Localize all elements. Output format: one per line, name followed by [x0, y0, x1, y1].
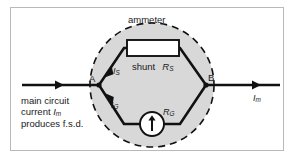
- left-lead-arrow-icon: [55, 80, 64, 89]
- node-b-label: B: [208, 72, 214, 83]
- shunt-current-label: IS: [113, 66, 120, 77]
- node-a-label: A: [89, 73, 95, 84]
- shunt-current-subscript: S: [116, 69, 120, 76]
- caption-line-1: main circuit: [21, 95, 83, 106]
- node-a-dot: [96, 82, 101, 87]
- caption-line-2-prefix: current: [21, 106, 53, 117]
- galvanometer-resistance-label: RG: [163, 107, 174, 118]
- main-current-right-label: Im: [253, 93, 261, 104]
- figure-container: ammeter A B shuntRS IS IG RG Im main cir…: [0, 0, 296, 166]
- galvanometer-resistance-subscript: G: [170, 110, 175, 117]
- caption-line-3: produces f.s.d.: [21, 118, 83, 129]
- caption-block: main circuit current Im produces f.s.d.: [21, 95, 83, 129]
- ammeter-title-label: ammeter: [128, 14, 165, 25]
- right-lead-arrow-icon: [252, 80, 261, 89]
- shunt-text: shunt: [132, 61, 155, 72]
- galvanometer-current-subscript: G: [114, 103, 119, 110]
- caption-main-current-subscript: m: [56, 111, 61, 118]
- main-current-subscript-right: m: [256, 96, 261, 103]
- caption-line-2: current Im: [21, 106, 83, 118]
- galvanometer-current-label: IG: [111, 100, 119, 111]
- shunt-resistance-subscript: S: [169, 65, 173, 72]
- shunt-resistor-symbol: [127, 40, 179, 56]
- shunt-label: shuntRS: [132, 61, 173, 73]
